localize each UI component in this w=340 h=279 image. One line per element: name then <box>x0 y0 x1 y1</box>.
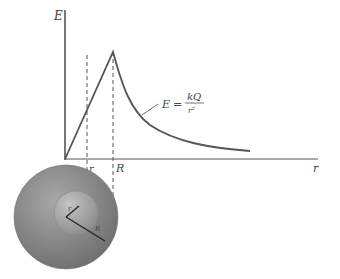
y-axis-label: E <box>53 9 63 23</box>
formula-denominator: r² <box>188 106 195 115</box>
formula-lhs: E <box>161 98 170 111</box>
inner-sphere <box>54 191 98 235</box>
field-curve <box>65 52 250 159</box>
formula-leader <box>142 104 158 115</box>
tick-label-R: R <box>115 162 124 175</box>
formula-eq: = <box>173 98 182 111</box>
x-axis-label: r <box>313 162 319 175</box>
formula-numerator: kQ <box>187 91 201 102</box>
field-diagram: E r r R E = kQ r² r R <box>0 0 340 279</box>
sphere-label-R: R <box>94 225 101 233</box>
